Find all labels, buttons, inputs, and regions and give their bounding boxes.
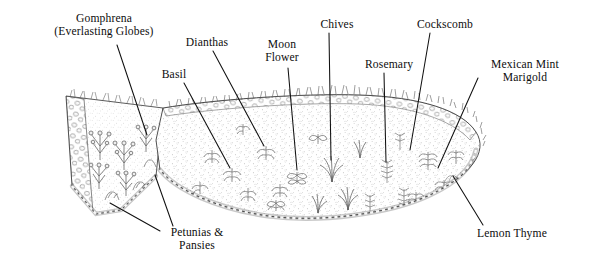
plant-label-dianthas: Dianthas xyxy=(176,36,238,49)
plant-label-lemon-thyme: Lemon Thyme xyxy=(466,227,558,240)
plant-label-moon-flower-line-1: Moon xyxy=(255,38,309,51)
plant-label-cockscomb-line-1: Cockscomb xyxy=(406,18,484,31)
plant-label-gomphrena-line-2: (Everlasting Globes) xyxy=(30,25,178,38)
plant-label-rosemary-line-1: Rosemary xyxy=(355,58,423,71)
plant-label-cockscomb: Cockscomb xyxy=(406,18,484,31)
plant-label-mexican-mint-marigold: Mexican MintMarigold xyxy=(478,58,572,85)
plant-label-basil-line-1: Basil xyxy=(152,68,196,81)
plant-label-lemon-thyme-line-1: Lemon Thyme xyxy=(466,227,558,240)
leader-line-petunias-pansies xyxy=(110,203,160,231)
plant-label-dianthas-line-1: Dianthas xyxy=(176,36,238,49)
plant-label-rosemary: Rosemary xyxy=(355,58,423,71)
plant-label-chives-line-1: Chives xyxy=(313,18,361,31)
plant-label-moon-flower-line-2: Flower xyxy=(255,51,309,64)
leader-line-lemon-thyme xyxy=(453,176,483,225)
plant-label-petunias-pansies: Petunias &Pansies xyxy=(158,226,236,253)
right-main-bed xyxy=(154,85,486,229)
plant-label-mexican-mint-marigold-line-2: Marigold xyxy=(478,71,572,84)
plant-label-petunias-pansies-line-1: Petunias & xyxy=(158,226,236,239)
plant-label-mexican-mint-marigold-line-1: Mexican Mint xyxy=(478,58,572,71)
left-wedge-bed xyxy=(66,89,163,214)
illustration-canvas: Gomphrena(Everlasting Globes)BasilDianth… xyxy=(0,0,595,267)
plant-label-moon-flower: MoonFlower xyxy=(255,38,309,65)
plant-label-basil: Basil xyxy=(152,68,196,81)
plant-label-chives: Chives xyxy=(313,18,361,31)
plant-label-petunias-pansies-line-2: Pansies xyxy=(158,239,236,252)
plant-label-gomphrena-line-1: Gomphrena xyxy=(30,12,178,25)
plant-label-gomphrena: Gomphrena(Everlasting Globes) xyxy=(30,12,178,39)
